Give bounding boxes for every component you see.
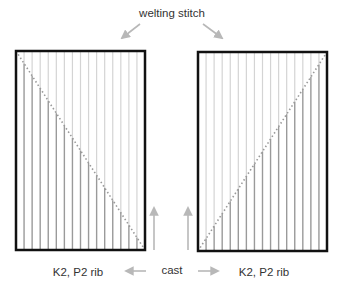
welting-stitch-label: welting stitch <box>138 7 205 19</box>
left-rib-label: K2, P2 rib <box>53 266 104 278</box>
right-stripes <box>206 52 319 251</box>
right-rib-label: K2, P2 rib <box>239 266 290 278</box>
arrow-to-left-panel <box>122 24 140 38</box>
arrow-to-right-panel <box>203 24 222 38</box>
left-panel <box>16 51 145 250</box>
right-panel <box>198 52 327 251</box>
cast-label: cast <box>161 264 183 276</box>
welting-diagram: welting stitch K2, P2 rib K2, P2 rib cas… <box>0 0 344 287</box>
left-stripes <box>24 51 137 250</box>
